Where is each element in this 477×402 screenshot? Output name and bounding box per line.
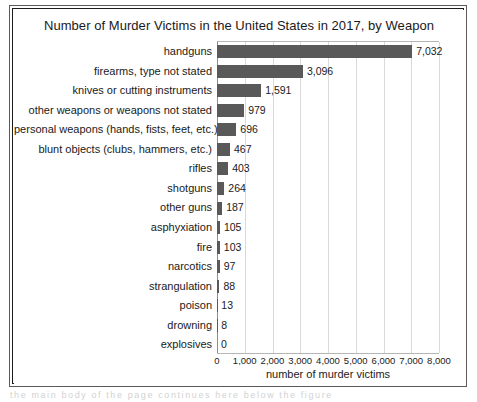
- bar-track: 88: [217, 277, 439, 297]
- x-tick-label: 3,000: [288, 355, 312, 366]
- bar[interactable]: [217, 84, 261, 97]
- bar-value-label: 13: [217, 296, 233, 316]
- chart-row: strangulation88: [14, 277, 464, 297]
- bar[interactable]: [217, 143, 230, 156]
- bar-value-label: 105: [220, 218, 242, 238]
- bar-value-label: 7,032: [412, 42, 442, 62]
- category-label: other guns: [14, 198, 212, 218]
- bar-value-label: 8: [217, 316, 227, 336]
- bar-track: 3,096: [217, 62, 439, 82]
- bar-value-label: 696: [236, 120, 258, 140]
- category-label: knives or cutting instruments: [14, 81, 212, 101]
- bar-track: 264: [217, 179, 439, 199]
- chart-row: blunt objects (clubs, hammers, etc.)467: [14, 140, 464, 160]
- bar[interactable]: [217, 123, 236, 136]
- x-axis-ticks: 01,0002,0003,0004,0005,0006,0007,0008,00…: [217, 355, 439, 369]
- chart-row: rifles403: [14, 159, 464, 179]
- bar-track: 105: [217, 218, 439, 238]
- x-tick-label: 2,000: [261, 355, 285, 366]
- bar-value-label: 103: [220, 238, 242, 258]
- category-label: asphyxiation: [14, 218, 212, 238]
- category-label: fire: [14, 238, 212, 258]
- chart-row: poison13: [14, 296, 464, 316]
- page-body-text: the main body of the page continues here…: [10, 390, 467, 400]
- bar-track: 403: [217, 159, 439, 179]
- bar[interactable]: [217, 45, 412, 58]
- chart-row: personal weapons (hands, fists, feet, et…: [14, 120, 464, 140]
- category-label: firearms, type not stated: [14, 62, 212, 82]
- bar-track: 467: [217, 140, 439, 160]
- chart-row: handguns7,032: [14, 42, 464, 62]
- x-axis-title: number of murder victims: [217, 368, 439, 380]
- chart-row: shotguns264: [14, 179, 464, 199]
- category-label: other weapons or weapons not stated: [14, 101, 212, 121]
- page-root: Number of Murder Victims in the United S…: [0, 0, 477, 402]
- chart-rows: handguns7,032firearms, type not stated3,…: [14, 10, 464, 384]
- bar-value-label: 264: [224, 179, 246, 199]
- bar-track: 979: [217, 101, 439, 121]
- bar-track: 0: [217, 335, 439, 355]
- category-label: explosives: [14, 335, 212, 355]
- category-label: poison: [14, 296, 212, 316]
- x-tick-label: 7,000: [399, 355, 423, 366]
- bar-track: 97: [217, 257, 439, 277]
- bar-value-label: 187: [222, 198, 244, 218]
- bar-value-label: 1,591: [261, 81, 291, 101]
- x-tick-label: 5,000: [344, 355, 368, 366]
- chart-row: fire103: [14, 238, 464, 258]
- bar[interactable]: [217, 162, 228, 175]
- bar[interactable]: [217, 104, 244, 117]
- category-label: personal weapons (hands, fists, feet, et…: [14, 120, 212, 140]
- chart-row: narcotics97: [14, 257, 464, 277]
- bar-value-label: 979: [244, 101, 266, 121]
- bar[interactable]: [217, 182, 224, 195]
- category-label: blunt objects (clubs, hammers, etc.): [14, 140, 212, 160]
- category-label: drowning: [14, 316, 212, 336]
- chart-row: explosives0: [14, 335, 464, 355]
- bar-value-label: 0: [217, 335, 227, 355]
- bar-track: 187: [217, 198, 439, 218]
- bar-track: 13: [217, 296, 439, 316]
- bar-track: 7,032: [217, 42, 439, 62]
- bar-value-label: 403: [228, 159, 250, 179]
- chart-row: firearms, type not stated3,096: [14, 62, 464, 82]
- x-tick-label: 4,000: [316, 355, 340, 366]
- category-label: strangulation: [14, 277, 212, 297]
- category-label: narcotics: [14, 257, 212, 277]
- chart-row: other guns187: [14, 198, 464, 218]
- chart-row: drowning8: [14, 316, 464, 336]
- figure-inner: Number of Murder Victims in the United S…: [14, 10, 464, 384]
- bar[interactable]: [217, 65, 303, 78]
- category-label: shotguns: [14, 179, 212, 199]
- chart-row: other weapons or weapons not stated979: [14, 101, 464, 121]
- bar-track: 1,591: [217, 81, 439, 101]
- bar-track: 696: [217, 120, 439, 140]
- bar-value-label: 97: [220, 257, 236, 277]
- category-label: handguns: [14, 42, 212, 62]
- bar-value-label: 88: [219, 277, 235, 297]
- x-tick-label: 0: [214, 355, 219, 366]
- x-tick-label: 8,000: [427, 355, 451, 366]
- x-tick-label: 1,000: [233, 355, 257, 366]
- x-tick-label: 6,000: [372, 355, 396, 366]
- bar-value-label: 3,096: [303, 62, 333, 82]
- category-label: rifles: [14, 159, 212, 179]
- bar-track: 8: [217, 316, 439, 336]
- chart-row: knives or cutting instruments1,591: [14, 81, 464, 101]
- chart-row: asphyxiation105: [14, 218, 464, 238]
- bar-track: 103: [217, 238, 439, 258]
- figure-frame: Number of Murder Victims in the United S…: [9, 5, 467, 387]
- bar-value-label: 467: [230, 140, 252, 160]
